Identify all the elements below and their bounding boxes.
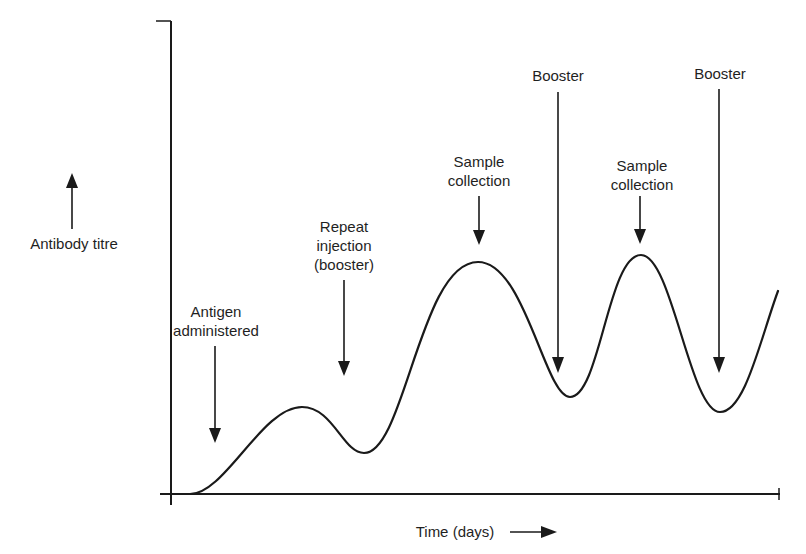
booster-1-arrow-down-icon <box>552 92 564 373</box>
annotation-line: administered <box>166 321 266 340</box>
y-axis-arrow-up-icon <box>66 173 78 229</box>
annotation-booster-1: Booster <box>522 66 594 85</box>
annotation-line: Repeat <box>302 217 386 236</box>
annotation-antigen-administered: Antigen administered <box>166 302 266 340</box>
annotation-line: Booster <box>684 64 756 83</box>
annotation-sample-collection-1: Sample collection <box>439 152 519 190</box>
x-axis <box>160 488 780 500</box>
repeat-injection-arrow-down-icon <box>338 280 350 376</box>
annotation-booster-2: Booster <box>684 64 756 83</box>
antibody-titre-diagram <box>0 0 806 554</box>
annotation-repeat-injection: Repeat injection (booster) <box>302 217 386 274</box>
annotation-line: collection <box>439 171 519 190</box>
annotation-line: Booster <box>522 66 594 85</box>
booster-2-arrow-down-icon <box>713 89 725 373</box>
annotation-line: Sample <box>602 156 682 175</box>
annotation-line: (booster) <box>302 255 386 274</box>
y-axis-label: Antibody titre <box>29 234 119 253</box>
x-axis-label: Time (days) <box>405 522 505 541</box>
annotation-line: collection <box>602 175 682 194</box>
annotation-line: Sample <box>439 152 519 171</box>
antibody-response-curve <box>171 255 778 494</box>
antigen-arrow-down-icon <box>209 346 221 443</box>
sample-collection-2-arrow-down-icon <box>634 196 646 244</box>
x-axis-arrow-right-icon <box>510 526 557 538</box>
annotation-sample-collection-2: Sample collection <box>602 156 682 194</box>
annotation-line: Antigen <box>166 302 266 321</box>
y-axis <box>156 21 171 505</box>
sample-collection-1-arrow-down-icon <box>473 196 485 245</box>
annotation-line: injection <box>302 236 386 255</box>
